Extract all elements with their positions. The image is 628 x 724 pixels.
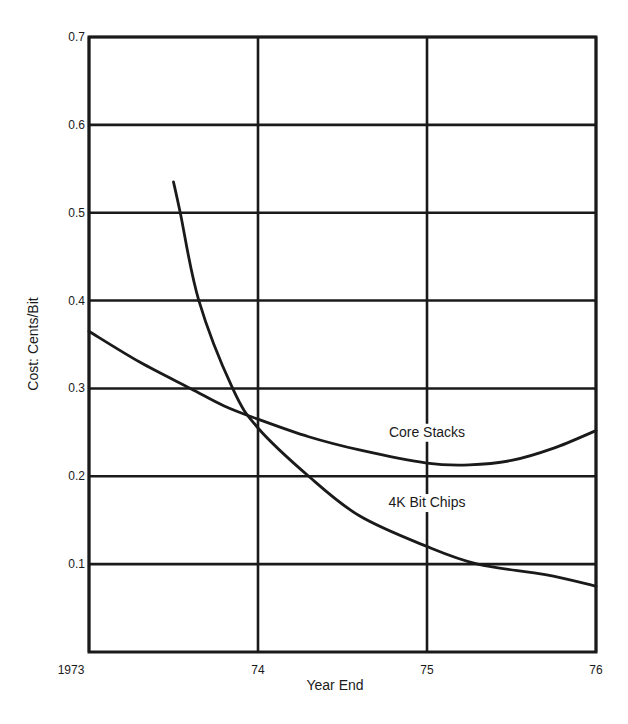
- y-tick-label: 0.5: [68, 206, 85, 220]
- annotation-core-stacks: Core Stacks: [389, 424, 465, 440]
- plot-border: [89, 37, 596, 652]
- y-tick-label: 0.6: [68, 118, 85, 132]
- y-tick-label: 0.1: [68, 557, 85, 571]
- x-tick-label: 1973: [58, 663, 85, 677]
- x-tick-label: 74: [251, 663, 265, 677]
- x-tick-label: 76: [589, 663, 603, 677]
- cost-per-bit-chart: 0.10.20.30.40.50.60.7 1973747576 Core St…: [0, 0, 628, 724]
- plot-frame: [89, 37, 596, 652]
- y-axis-label: Cost: Cents/Bit: [25, 297, 41, 390]
- grid-lines: [89, 37, 596, 652]
- x-tick-label: 75: [420, 663, 434, 677]
- y-tick-label: 0.7: [68, 30, 85, 44]
- series-line-4k-bit-chips: [174, 182, 597, 586]
- series-line-core-stacks: [89, 331, 596, 465]
- x-axis-ticks: 1973747576: [58, 663, 603, 677]
- x-axis-label: Year End: [306, 677, 363, 693]
- y-axis-ticks: 0.10.20.30.40.50.60.7: [68, 30, 85, 571]
- annotation-4k-bit-chips: 4K Bit Chips: [388, 494, 465, 510]
- data-series: [89, 182, 596, 586]
- y-tick-label: 0.3: [68, 381, 85, 395]
- y-tick-label: 0.2: [68, 469, 85, 483]
- y-tick-label: 0.4: [68, 294, 85, 308]
